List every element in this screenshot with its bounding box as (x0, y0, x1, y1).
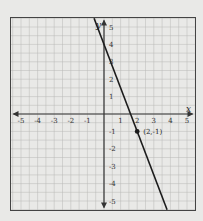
y-axis-down-arrow-icon (101, 203, 107, 209)
coordinate-plane: -5-4-3-2-11234554321-1-2-3-4-5 x y (2,-1… (0, 0, 203, 221)
y-axis-up-arrow-icon (101, 20, 107, 26)
x-tick-label: 1 (118, 117, 122, 125)
y-tick-label: -4 (109, 180, 116, 188)
point-marker (135, 129, 140, 134)
x-axis-label: x (186, 104, 191, 114)
x-tick-label: 3 (152, 117, 156, 125)
x-tick-label: 2 (135, 117, 139, 125)
x-tick-label: -5 (18, 117, 25, 125)
x-tick-label: 5 (185, 117, 189, 125)
y-tick-label: 2 (109, 76, 113, 84)
y-tick-label: -2 (109, 145, 116, 153)
x-tick-label: -1 (84, 117, 91, 125)
x-tick-label: -2 (67, 117, 74, 125)
y-tick-label: 4 (109, 41, 114, 49)
x-tick-label: 4 (168, 117, 173, 125)
y-tick-label: -3 (109, 163, 116, 171)
axes (13, 20, 194, 209)
y-tick-label: 5 (109, 24, 113, 32)
y-tick-label: -5 (109, 198, 116, 206)
y-tick-label: 1 (109, 93, 113, 101)
point-label: (2,-1) (143, 128, 162, 136)
y-tick-label: -1 (109, 128, 116, 136)
x-tick-label: -3 (51, 117, 58, 125)
x-tick-label: -4 (34, 117, 41, 125)
